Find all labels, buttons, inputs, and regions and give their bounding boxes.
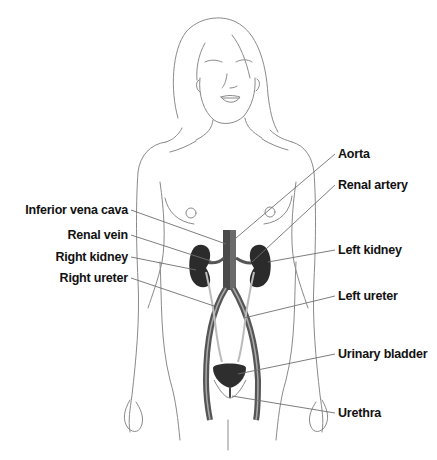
urinary-system-diagram: Inferior vena cava Renal vein Right kidn… — [0, 0, 437, 460]
label-urethra: Urethra — [338, 406, 381, 420]
label-inferior-vena-cava: Inferior vena cava — [25, 203, 128, 217]
label-left-kidney: Left kidney — [338, 243, 402, 257]
label-renal-vein: Renal vein — [67, 228, 128, 242]
label-right-kidney: Right kidney — [55, 250, 128, 264]
anatomy-illustration — [0, 0, 437, 460]
label-right-ureter: Right ureter — [60, 271, 128, 285]
leader-urinary-bladder — [238, 354, 335, 374]
urinary-bladder-organ — [213, 364, 246, 389]
label-left-ureter: Left ureter — [338, 289, 398, 303]
label-aorta: Aorta — [338, 147, 370, 161]
urinary-organs — [189, 230, 271, 420]
leader-left-ureter — [244, 296, 335, 318]
leader-left-kidney — [268, 250, 335, 262]
leader-aorta — [236, 154, 335, 238]
leader-right-kidney — [131, 257, 196, 270]
leader-inferior-vena-cava — [131, 210, 226, 244]
label-urinary-bladder: Urinary bladder — [338, 347, 427, 361]
left-iliac-vessel — [233, 288, 258, 420]
leader-urethra — [232, 396, 335, 413]
label-renal-artery: Renal artery — [338, 178, 408, 192]
aorta-vessel — [230, 230, 236, 290]
